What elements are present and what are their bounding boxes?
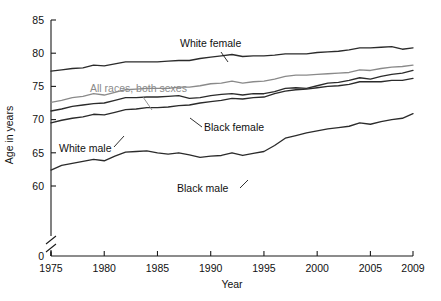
series-line-white-female: [51, 47, 413, 72]
y-tick-label: 60: [32, 180, 44, 192]
x-tick-label: 1975: [39, 262, 63, 274]
y-tick-label: 80: [32, 47, 44, 59]
series-annotation-all-races-both-sexes: All races, both sexes: [90, 82, 187, 94]
life-expectancy-line-chart: Age in years Year 8580757065600197519801…: [0, 0, 441, 301]
series-annotation-black-female: Black female: [204, 121, 264, 133]
series-annotation-white-male: White male: [59, 142, 112, 154]
leader-black-female: [190, 118, 202, 127]
y-tick-label: 85: [32, 14, 44, 26]
y-tick-label: 65: [32, 147, 44, 159]
x-tick-label: 2009: [401, 262, 425, 274]
chart-canvas: Age in years Year 8580757065600197519801…: [0, 0, 441, 301]
leader-black-male: [240, 180, 248, 188]
x-axis-title: Year: [221, 278, 243, 290]
y-axis-title: Age in years: [3, 106, 15, 164]
series-annotation-black-male: Black male: [177, 182, 229, 194]
series-annotation-white-female: White female: [180, 37, 241, 49]
x-tick-label: 2000: [305, 262, 329, 274]
y-tick-label: 75: [32, 80, 44, 92]
x-tick-label: 2005: [359, 262, 383, 274]
y-axis-break-marks: [46, 236, 56, 252]
y-tick-label: 70: [32, 113, 44, 125]
leader-white-male: [114, 136, 124, 147]
x-tick-label: 1995: [252, 262, 276, 274]
x-tick-label: 1980: [93, 262, 117, 274]
x-tick-label: 1990: [199, 262, 223, 274]
y-tick-label-zero: 0: [38, 250, 44, 262]
x-tick-label: 1985: [146, 262, 170, 274]
leader-white-female: [221, 52, 228, 62]
leader-lines: [114, 52, 248, 188]
